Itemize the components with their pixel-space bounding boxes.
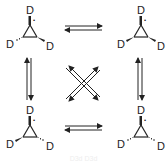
atom-label-d: D bbox=[6, 138, 14, 150]
molecule-top-right: D • D D bbox=[117, 4, 165, 52]
molecule-bottom-right: D • D D bbox=[117, 104, 165, 152]
equilibrium-arrow-right bbox=[138, 58, 142, 100]
footer-caption: D3d D3d bbox=[0, 155, 167, 162]
atom-label-d: D bbox=[46, 40, 54, 52]
reaction-scheme: D • D D D • D D D • D bbox=[0, 0, 167, 167]
atom-label-d: D bbox=[117, 138, 125, 150]
radical-dot: • bbox=[144, 17, 146, 23]
atom-label-d: D bbox=[6, 38, 14, 50]
atom-label-d: D bbox=[157, 40, 165, 52]
atom-label-d: D bbox=[26, 104, 34, 116]
diagram-canvas: D • D D D • D D D • D bbox=[0, 0, 167, 167]
atom-label-d: D bbox=[26, 4, 34, 16]
molecule-bottom-left: D • D D bbox=[6, 104, 54, 152]
atom-label-d: D bbox=[137, 4, 145, 16]
atom-label-d: D bbox=[46, 140, 54, 152]
radical-dot: • bbox=[33, 17, 35, 23]
atom-label-d: D bbox=[137, 104, 145, 116]
radical-dot: • bbox=[144, 117, 146, 123]
molecule-top-left: D • D D bbox=[6, 4, 54, 52]
equilibrium-arrow-top bbox=[65, 26, 102, 30]
equilibrium-arrow-left bbox=[27, 58, 31, 100]
radical-dot: • bbox=[33, 117, 35, 123]
atom-label-d: D bbox=[157, 140, 165, 152]
atom-label-d: D bbox=[117, 38, 125, 50]
equilibrium-arrow-diagonal bbox=[66, 66, 100, 101]
equilibrium-arrow-bottom bbox=[65, 126, 102, 130]
